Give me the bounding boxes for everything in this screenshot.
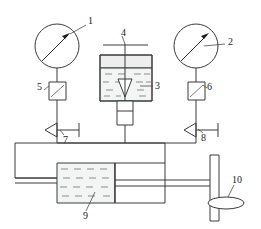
- shutoff-valve-left: [45, 123, 79, 143]
- tank-outlet-body: [117, 101, 133, 125]
- callout-1-pressure-gauge-left: 1: [88, 15, 93, 26]
- leader-line-10: [228, 185, 234, 197]
- schematic-canvas: 1 2 3 4 5 6 7 8 9 10: [0, 0, 261, 229]
- liquid-tank-assembly: [100, 36, 153, 143]
- transducer-box-right: [188, 82, 207, 123]
- callout-6-right-transducer: 6: [207, 81, 212, 92]
- leader-line-5: [44, 86, 49, 90]
- valve-right-cone: [184, 123, 196, 137]
- callout-7-left-valve: 7: [63, 134, 68, 145]
- hydraulic-cylinder: [15, 163, 165, 211]
- load-plate: [210, 155, 219, 221]
- pressure-gauge-left: [35, 24, 86, 82]
- valve-left-cone: [45, 123, 57, 137]
- tank-air-space: [100, 55, 152, 68]
- cylinder-barrel: [115, 163, 165, 203]
- leader-line-1: [70, 25, 86, 34]
- transducer-box-left: [44, 82, 66, 123]
- callout-5-left-transducer: 5: [37, 81, 42, 92]
- pressure-gauge-right: [174, 24, 225, 82]
- callout-2-pressure-gauge-right: 2: [228, 36, 233, 47]
- callout-3-liquid-tank: 3: [155, 80, 160, 91]
- reservoir-left-path: [15, 143, 57, 178]
- callout-10-load-disc: 10: [232, 174, 242, 185]
- callout-4-actuator-rod: 4: [121, 27, 126, 38]
- callout-9-cylinder-chamber: 9: [83, 210, 88, 221]
- load-disc: [208, 197, 244, 209]
- hydraulic-schematic-diagram: 1 2 3 4 5 6 7 8 9 10: [0, 0, 261, 229]
- callout-8-right-valve: 8: [201, 132, 206, 143]
